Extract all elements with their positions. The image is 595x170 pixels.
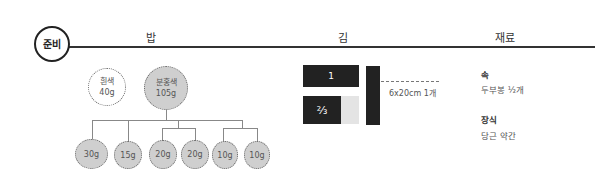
column-header-rice: 밥: [146, 29, 156, 45]
nori-full-label: 1: [328, 71, 334, 81]
nori-fraction-label: ⅔: [317, 104, 328, 117]
nori-leader-line: [381, 81, 439, 82]
garnish-title: 장식: [481, 113, 497, 125]
filling-value: 두부봉 ½개: [481, 83, 524, 95]
section-badge-label: 준비: [34, 36, 70, 51]
rice-white-circle: 흰색 40g: [88, 68, 126, 106]
tree-drop-2: [128, 120, 129, 142]
column-header-ingredients: 재료: [495, 29, 515, 45]
filling-title: 속: [481, 68, 489, 80]
garnish-value: 당근 약간: [481, 129, 516, 141]
rice-white-name: 흰색: [100, 76, 114, 87]
portion-weight: 15g: [120, 150, 135, 161]
tree-drop-3: [178, 120, 179, 128]
portion-weight: 30g: [84, 149, 99, 160]
nori-full-sheet: 1: [303, 65, 359, 87]
portion-weight: 10g: [217, 150, 232, 161]
rice-pink-weight: 105g: [156, 88, 176, 99]
rice-pink-circle: 분홍색 105g: [144, 66, 188, 110]
rice-pink-name: 분홍색: [156, 77, 177, 88]
nori-fraction-sheet: ⅔: [303, 96, 341, 124]
tree-drop-4b: [257, 128, 258, 142]
header-rule: [40, 46, 595, 48]
rice-portion: 10g: [212, 141, 238, 169]
tree-stem: [166, 110, 167, 120]
rice-portion: 20g: [181, 140, 209, 169]
rice-portion: 10g: [244, 141, 270, 169]
portion-weight: 10g: [249, 150, 264, 161]
tree-sub-branch-1: [162, 128, 195, 129]
nori-size-label: 6x20cm 1개: [389, 87, 436, 98]
rice-portion: 30g: [75, 139, 108, 169]
nori-strip: [366, 66, 380, 125]
rice-portion: 15g: [114, 141, 142, 169]
tree-branch-main: [92, 120, 242, 121]
nori-fraction-remainder: [341, 96, 359, 124]
tree-drop-4a: [223, 128, 224, 142]
rice-portion: 20g: [149, 140, 177, 169]
portion-weight: 20g: [187, 149, 202, 160]
tree-sub-branch-2: [223, 128, 257, 129]
column-header-nori: 김: [338, 29, 348, 45]
portion-weight: 20g: [155, 149, 170, 160]
rice-white-weight: 40g: [99, 87, 114, 98]
tree-drop-4: [242, 120, 243, 128]
